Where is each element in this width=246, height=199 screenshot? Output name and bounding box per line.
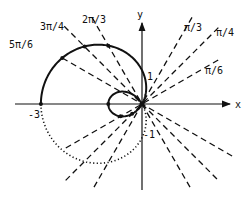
intersection-dots <box>39 44 134 119</box>
curve-point <box>106 44 110 48</box>
curve-point <box>119 114 123 118</box>
tick-label-neg3: -3 <box>28 109 40 120</box>
tick-label-neg1: -1 <box>143 129 155 140</box>
curve-point <box>82 44 86 48</box>
y-axis-label: y <box>137 9 143 20</box>
tick-label-1: 1 <box>147 71 153 82</box>
outer-loop-upper <box>41 45 146 104</box>
ray-label-5pi6: 5π/6 <box>9 39 33 50</box>
polar-diagram: x y -3 1 -1 π/6 π/6 π/4 π/3 2π/3 3π/4 5π… <box>0 0 246 199</box>
ray-label-2pi3: 2π/3 <box>82 14 106 25</box>
x-axis-label: x <box>235 99 241 110</box>
origin-dot <box>140 102 145 107</box>
curve-point <box>106 102 110 106</box>
curve-point <box>130 112 134 116</box>
curve-point <box>39 102 43 106</box>
curve-point <box>60 56 64 60</box>
ray-label-pi4: π/4 <box>216 27 234 38</box>
ray-label-pi3: π/3 <box>184 22 202 33</box>
ray-label-3pi4: 3π/4 <box>40 21 64 32</box>
ray-label-pi6: π/6 <box>205 65 223 76</box>
